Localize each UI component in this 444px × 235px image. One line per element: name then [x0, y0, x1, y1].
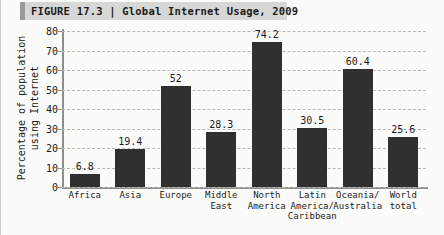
figure-title-band: FIGURE 17.3 | Global Internet Usage, 200… — [20, 2, 287, 20]
bar-value-label: 19.4 — [118, 136, 142, 147]
bar — [161, 86, 191, 187]
bar — [252, 42, 282, 187]
bar-value-label: 60.4 — [346, 56, 370, 67]
y-axis-tick-label: 60 — [36, 65, 58, 76]
bar — [343, 69, 373, 187]
bar-value-label: 6.8 — [76, 161, 94, 172]
bar-value-label: 74.2 — [255, 29, 279, 40]
page-title: FIGURE 17.3 | Global Internet Usage, 200… — [25, 5, 298, 17]
y-axis-tick-label: 80 — [36, 26, 58, 37]
bar-value-label: 52 — [170, 73, 182, 84]
x-axis-tick-labels: AfricaAsiaEuropeMiddle EastNorth America… — [62, 190, 428, 234]
plot-area: 6.819.45228.374.230.560.425.6 — [62, 31, 426, 187]
gridline — [62, 51, 426, 52]
bar — [388, 137, 418, 187]
y-axis-tick-mark — [58, 168, 62, 169]
figure-container: FIGURE 17.3 | Global Internet Usage, 200… — [0, 0, 444, 235]
y-axis-tick-label: 20 — [36, 143, 58, 154]
gridline — [62, 31, 426, 32]
y-axis-tick-mark — [58, 109, 62, 110]
gridline — [62, 187, 426, 188]
y-axis-tick-label: 40 — [36, 104, 58, 115]
y-axis-tick-mark — [58, 51, 62, 52]
y-axis-tick-label: 30 — [36, 123, 58, 134]
bar — [297, 128, 327, 187]
x-axis-category-label: World total — [374, 190, 434, 211]
bar — [115, 149, 145, 187]
bar-value-label: 25.6 — [391, 124, 415, 135]
bar — [70, 174, 100, 187]
y-axis-tick-mark — [58, 31, 62, 32]
bar — [206, 132, 236, 187]
y-axis-tick-mark — [58, 70, 62, 71]
y-axis-tick-mark — [58, 129, 62, 130]
y-axis-tick-mark — [58, 187, 62, 188]
y-axis-tick-label: 70 — [36, 45, 58, 56]
y-axis-tick-label: 50 — [36, 84, 58, 95]
y-axis-tick-mark — [58, 90, 62, 91]
y-axis-tick-labels: 01020304050607080 — [34, 31, 58, 187]
bar-value-label: 30.5 — [300, 115, 324, 126]
y-axis-title-line1: Percentage of population — [15, 36, 28, 181]
y-axis-tick-label: 10 — [36, 162, 58, 173]
bar-value-label: 28.3 — [209, 119, 233, 130]
y-axis-tick-mark — [58, 148, 62, 149]
